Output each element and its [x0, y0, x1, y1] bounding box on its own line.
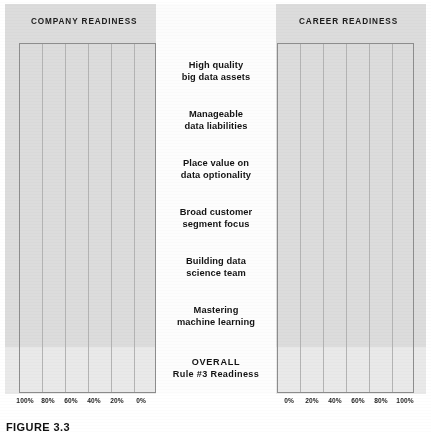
- gridline-right-2: [323, 44, 324, 392]
- gridline-right-5: [392, 44, 393, 392]
- axis-career-readiness: 0% 20% 40% 60% 80% 100%: [277, 397, 414, 409]
- row-label-line1: Mastering: [194, 305, 239, 315]
- axis-tick-right-20: 20%: [305, 397, 319, 404]
- axis-tick-right-40: 40%: [328, 397, 342, 404]
- gridline-left-3: [88, 44, 89, 392]
- gridline-right-3: [346, 44, 347, 392]
- row-label-line1: Place value on: [183, 158, 249, 168]
- axis-tick-right-0: 0%: [284, 397, 294, 404]
- row-label-line1: OVERALL: [192, 357, 240, 367]
- figure-caption: FIGURE 3.3: [6, 421, 70, 432]
- row-label-column: High quality big data assets Manageable …: [156, 43, 276, 393]
- row-label-line2: data optionality: [156, 169, 276, 181]
- panel-title-company-readiness: Company Readiness: [31, 17, 137, 26]
- gridline-left-2: [65, 44, 66, 392]
- axis-tick-left-100: 100%: [16, 397, 33, 404]
- panel-title-career-readiness: Career Readiness: [299, 17, 398, 26]
- row-label-line2: science team: [156, 267, 276, 279]
- row-label-line1: High quality: [189, 60, 243, 70]
- row-label-broad-customer-segment-focus: Broad customer segment focus: [156, 206, 276, 231]
- row-label-place-value-on-data-optionality: Place value on data optionality: [156, 157, 276, 182]
- row-label-line2: machine learning: [156, 316, 276, 328]
- axis-tick-right-60: 60%: [351, 397, 365, 404]
- row-label-line2: data liabilities: [156, 120, 276, 132]
- row-label-line2: big data assets: [156, 71, 276, 83]
- gridline-left-4: [111, 44, 112, 392]
- row-label-manageable-data-liabilities: Manageable data liabilities: [156, 108, 276, 133]
- figure-container: Company Readiness Career Readiness High …: [0, 0, 431, 432]
- gridline-left-1: [42, 44, 43, 392]
- center-label-gutter-top: [156, 4, 276, 38]
- plot-area-company-readiness[interactable]: [19, 43, 156, 393]
- row-label-line2: Rule #3 Readiness: [156, 368, 276, 380]
- gridline-right-4: [369, 44, 370, 392]
- gridline-left-5: [134, 44, 135, 392]
- row-label-line2: segment focus: [156, 218, 276, 230]
- row-label-mastering-machine-learning: Mastering machine learning: [156, 304, 276, 329]
- axis-tick-left-40: 40%: [87, 397, 101, 404]
- row-label-building-data-science-team: Building data science team: [156, 255, 276, 280]
- axis-tick-left-80: 80%: [41, 397, 55, 404]
- axis-tick-right-100: 100%: [396, 397, 413, 404]
- row-label-line1: Building data: [186, 256, 246, 266]
- row-label-high-quality-big-data-assets: High quality big data assets: [156, 59, 276, 84]
- axis-company-readiness: 100% 80% 60% 40% 20% 0%: [19, 397, 156, 409]
- axis-tick-left-60: 60%: [64, 397, 78, 404]
- axis-tick-right-80: 80%: [374, 397, 388, 404]
- row-label-line1: Broad customer: [180, 207, 253, 217]
- row-label-overall-rule-3-readiness: OVERALL Rule #3 Readiness: [156, 356, 276, 381]
- row-label-line1: Manageable: [189, 109, 243, 119]
- plot-area-career-readiness[interactable]: [277, 43, 414, 393]
- gridline-right-1: [300, 44, 301, 392]
- axis-tick-left-20: 20%: [110, 397, 124, 404]
- axis-tick-left-0: 0%: [136, 397, 146, 404]
